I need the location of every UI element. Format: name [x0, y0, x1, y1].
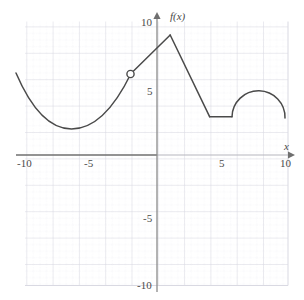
x-tick-label-neg10: -10 — [17, 157, 32, 169]
x-axis-label: x — [284, 140, 289, 152]
x-tick-label-neg5: -5 — [84, 157, 93, 169]
y-tick-label-10: 10 — [141, 16, 152, 28]
y-axis-label-arg: (x) — [173, 10, 185, 22]
open-point-marker — [127, 70, 134, 77]
y-tick-label-neg5: -5 — [143, 212, 152, 224]
function-plot — [0, 0, 304, 300]
y-tick-label-5: 5 — [147, 85, 153, 97]
x-tick-label-10: 10 — [280, 157, 291, 169]
y-axis-label: f(x) — [170, 10, 185, 22]
y-tick-label-neg10: -10 — [137, 279, 152, 291]
graph-figure: f(x) x -10 -5 5 10 10 5 -5 -10 — [0, 0, 304, 300]
x-tick-label-5: 5 — [219, 157, 225, 169]
